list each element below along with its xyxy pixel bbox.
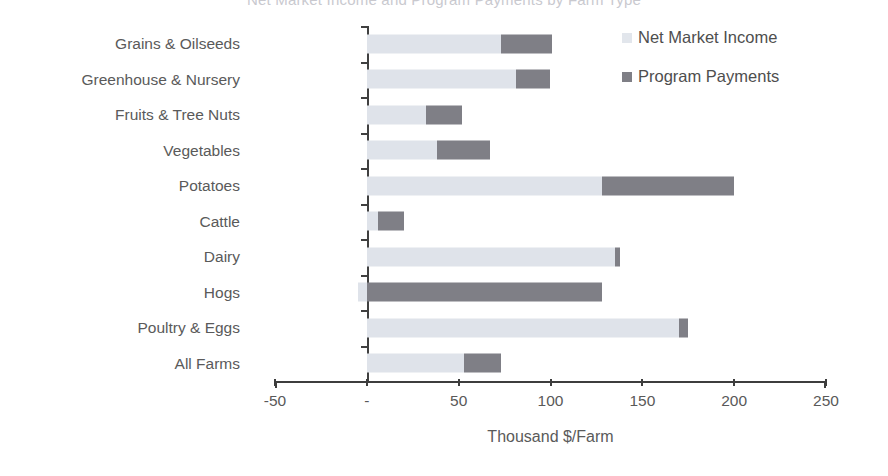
category-tick (361, 346, 367, 348)
x-axis-tick (641, 379, 643, 386)
bar-segment-program-payments[interactable] (378, 212, 404, 231)
bar-segment-net-market-income[interactable] (358, 283, 367, 302)
category-label: Dairy (0, 239, 262, 275)
category-axis-labels: Grains & OilseedsGreenhouse & NurseryFru… (0, 26, 262, 381)
square-swatch-light-icon (622, 33, 632, 43)
bar-row[interactable] (275, 346, 826, 382)
category-tick (361, 168, 367, 170)
category-label: All Farms (0, 346, 262, 382)
bar-segment-program-payments[interactable] (602, 176, 734, 195)
square-swatch-dark-icon (622, 72, 632, 82)
x-axis-tick (274, 379, 276, 386)
bar-row[interactable] (275, 133, 826, 169)
chart-title-faint: Net Market Income and Program Payments b… (0, 0, 888, 14)
category-label: Greenhouse & Nursery (0, 62, 262, 98)
category-label: Potatoes (0, 168, 262, 204)
category-label: Cattle (0, 204, 262, 240)
category-tick (361, 204, 367, 206)
x-axis-tick (733, 379, 735, 386)
x-axis-tick-label: 150 (602, 392, 682, 410)
bar-segment-net-market-income[interactable] (367, 318, 679, 337)
x-axis-tick (825, 379, 827, 386)
category-label: Hogs (0, 275, 262, 311)
x-axis-tick-label: -50 (235, 392, 315, 410)
bar-segment-net-market-income[interactable] (367, 354, 464, 373)
category-tick (361, 97, 367, 99)
category-tick (361, 62, 367, 64)
x-axis-tick (366, 379, 368, 386)
bar-segment-net-market-income[interactable] (367, 176, 602, 195)
bar-segment-net-market-income[interactable] (367, 212, 378, 231)
bar-segment-program-payments[interactable] (437, 141, 490, 160)
category-tick (361, 133, 367, 135)
x-axis-tick-label: 100 (511, 392, 591, 410)
legend-label: Program Payments (638, 67, 779, 86)
chart-title-text: Net Market Income and Program Payments b… (0, 0, 888, 8)
bar-row[interactable] (275, 275, 826, 311)
bar-segment-program-payments[interactable] (501, 34, 552, 53)
bar-segment-net-market-income[interactable] (367, 141, 437, 160)
bar-segment-program-payments[interactable] (367, 283, 602, 302)
bar-segment-program-payments[interactable] (426, 105, 463, 124)
category-label: Vegetables (0, 133, 262, 169)
bar-row[interactable] (275, 168, 826, 204)
bar-segment-program-payments[interactable] (679, 318, 688, 337)
bar-segment-net-market-income[interactable] (367, 105, 426, 124)
legend: Net Market Income Program Payments (622, 28, 872, 106)
bar-segment-program-payments[interactable] (516, 70, 551, 89)
legend-item-program-payments[interactable]: Program Payments (622, 67, 872, 86)
bar-row[interactable] (275, 239, 826, 275)
bar-segment-program-payments[interactable] (464, 354, 501, 373)
bar-chart: Net Market Income and Program Payments b… (0, 0, 888, 476)
category-tick (361, 275, 367, 277)
category-label: Fruits & Tree Nuts (0, 97, 262, 133)
bar-segment-net-market-income[interactable] (367, 247, 615, 266)
x-axis-tick-label: 200 (694, 392, 774, 410)
x-axis-title: Thousand $/Farm (275, 428, 826, 446)
category-label: Grains & Oilseeds (0, 26, 262, 62)
x-axis-tick-label: 250 (786, 392, 866, 410)
legend-label: Net Market Income (638, 28, 777, 47)
category-tick (361, 26, 367, 28)
legend-item-net-market-income[interactable]: Net Market Income (622, 28, 872, 47)
x-axis-tick-label: - (327, 392, 407, 410)
category-tick (361, 239, 367, 241)
x-axis-tick (458, 379, 460, 386)
x-axis-tick-label: 50 (419, 392, 499, 410)
category-tick (361, 310, 367, 312)
bar-segment-net-market-income[interactable] (367, 70, 516, 89)
x-axis-tick (550, 379, 552, 386)
bar-segment-program-payments[interactable] (615, 247, 621, 266)
bar-row[interactable] (275, 310, 826, 346)
bar-row[interactable] (275, 204, 826, 240)
bar-segment-net-market-income[interactable] (367, 34, 501, 53)
category-label: Poultry & Eggs (0, 310, 262, 346)
